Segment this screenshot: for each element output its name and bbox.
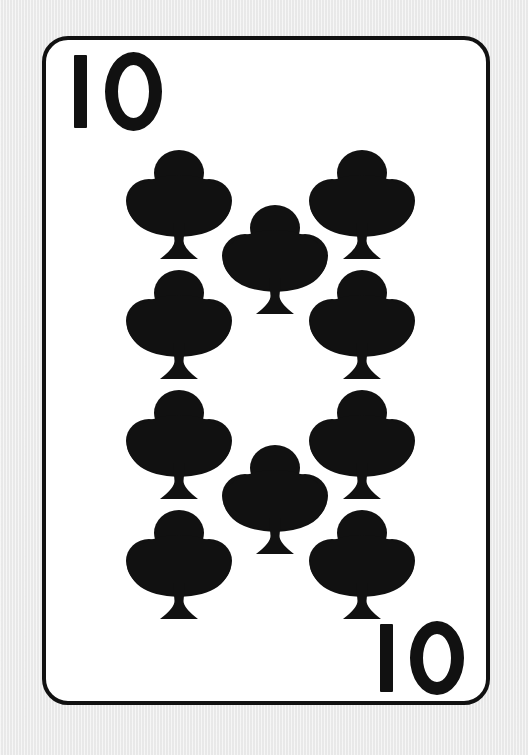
club-pip: [222, 444, 328, 558]
rank-digit-one-icon: [380, 624, 393, 692]
club-pip: [222, 204, 328, 318]
pip-field: [46, 40, 486, 701]
club-pip: [126, 509, 232, 623]
club-pip: [126, 149, 232, 263]
rank-digit-zero-icon: [410, 621, 464, 695]
club-pip: [126, 269, 232, 383]
corner-index-bottom-right: [380, 621, 464, 695]
playing-card[interactable]: [42, 36, 490, 705]
club-pip: [126, 389, 232, 503]
